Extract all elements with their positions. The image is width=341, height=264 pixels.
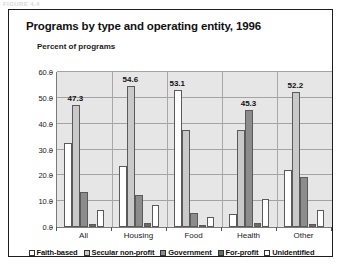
x-tick-mark (276, 227, 277, 231)
bar-other-secular-non-profit (292, 92, 300, 227)
bar-other-faith-based (284, 170, 292, 227)
bar-housing-government (135, 195, 143, 227)
legend-item-government[interactable]: Government (160, 248, 211, 257)
bar-food-unidentified (207, 217, 215, 227)
y-tick-mark (50, 201, 53, 202)
x-category-label: Housing (124, 231, 153, 240)
bar-health-unidentified (262, 199, 270, 227)
bar-health-government (245, 110, 253, 227)
y-tick-mark (50, 98, 53, 99)
y-tick-mark (50, 227, 53, 228)
x-tick-mark (221, 227, 222, 231)
gridline (57, 123, 332, 124)
bar-value-label: 45.3 (241, 99, 257, 108)
y-tick-mark (50, 72, 53, 73)
y-tick-label: 0.0 (19, 223, 53, 232)
y-tick-label: 30.0 (19, 145, 53, 154)
bar-housing-faith-based (119, 166, 127, 227)
bar-other-unidentified (317, 210, 325, 227)
x-tick-mark (56, 227, 57, 231)
legend-item-secular-non-profit[interactable]: Secular non-profit (84, 248, 155, 257)
x-tick-mark (111, 227, 112, 231)
bar-value-label: 53.1 (169, 79, 185, 88)
scan-artifact-top-text: FIGURE 4.4 (0, 0, 341, 7)
x-category-label: Other (293, 231, 313, 240)
bar-housing-unidentified (152, 205, 160, 227)
gridline (57, 97, 332, 98)
bar-food-government (190, 213, 198, 227)
figure-title: Programs by type and operating entity, 1… (26, 20, 261, 32)
y-axis-caption: Percent of programs (37, 42, 115, 51)
y-tick-label: 20.0 (19, 171, 53, 180)
y-tick-label: 50.0 (19, 93, 53, 102)
y-tick-label: 10.0 (19, 197, 53, 206)
legend-swatch-icon (160, 250, 166, 256)
chart-legend: Faith-basedSecular non-profitGovernmentF… (9, 248, 334, 257)
gridline (57, 71, 332, 72)
x-category-label: Food (184, 231, 202, 240)
x-tick-mark (331, 227, 332, 231)
legend-label: Faith-based (37, 248, 78, 257)
bar-health-secular-non-profit (237, 130, 245, 227)
y-tick-label: 60.0 (19, 68, 53, 77)
group-separator (112, 72, 113, 227)
bar-all-secular-non-profit (72, 105, 80, 227)
bar-all-for-profit (89, 224, 97, 227)
bar-food-faith-based (174, 90, 182, 227)
legend-label: For-profit (226, 248, 259, 257)
group-separator (167, 72, 168, 227)
x-category-label: Health (237, 231, 260, 240)
figure-container: Programs by type and operating entity, 1… (8, 9, 333, 257)
bar-value-label: 52.2 (288, 81, 304, 90)
bar-housing-secular-non-profit (127, 86, 135, 227)
bar-food-for-profit (199, 225, 207, 227)
y-tick-mark (50, 150, 53, 151)
gridline (57, 149, 332, 150)
legend-item-for-profit[interactable]: For-profit (218, 248, 259, 257)
bar-food-secular-non-profit (182, 130, 190, 227)
plot-area (56, 72, 332, 228)
x-tick-mark (166, 227, 167, 231)
x-category-label: All (79, 231, 88, 240)
legend-swatch-icon (264, 250, 270, 256)
legend-label: Government (168, 248, 211, 257)
legend-label: Unidentified (272, 248, 314, 257)
bar-all-unidentified (97, 210, 105, 227)
bar-health-faith-based (229, 214, 237, 227)
bar-housing-for-profit (144, 223, 152, 227)
y-tick-mark (50, 175, 53, 176)
bar-value-label: 47.3 (68, 94, 84, 103)
group-separator (277, 72, 278, 227)
bar-value-label: 54.6 (123, 75, 139, 84)
legend-swatch-icon (29, 250, 35, 256)
group-separator (222, 72, 223, 227)
legend-swatch-icon (218, 250, 224, 256)
legend-swatch-icon (84, 250, 90, 256)
bar-health-for-profit (254, 223, 262, 227)
bar-other-for-profit (309, 224, 317, 227)
legend-label: Secular non-profit (92, 248, 155, 257)
bar-other-government (300, 177, 308, 227)
y-tick-mark (50, 124, 53, 125)
bar-all-government (80, 192, 88, 227)
legend-item-faith-based[interactable]: Faith-based (29, 248, 78, 257)
y-tick-label: 40.0 (19, 119, 53, 128)
bar-all-faith-based (64, 143, 72, 227)
y-axis-tick-labels: 0.010.020.030.040.050.060.0 (9, 72, 53, 228)
legend-item-unidentified[interactable]: Unidentified (264, 248, 314, 257)
